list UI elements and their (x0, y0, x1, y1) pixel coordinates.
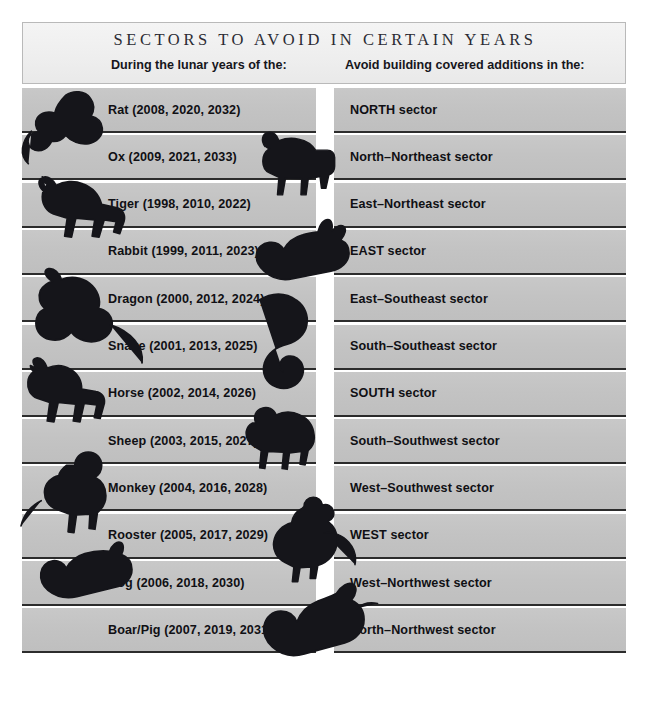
column-heading-sectors: Avoid building covered additions in the: (345, 58, 585, 72)
cell-sector: North–Northwest sector (334, 608, 626, 653)
sector-label: SOUTH sector (350, 386, 437, 400)
table-row: Sheep (2003, 2015, 2027)South–Southwest … (0, 419, 665, 466)
sector-label: South–Southwest sector (350, 434, 500, 448)
cell-lunar-year: Dog (2006, 2018, 2030) (22, 561, 316, 606)
cell-sector: East–Southeast sector (334, 277, 626, 322)
lunar-year-label: Sheep (2003, 2015, 2027) (108, 434, 258, 448)
sector-label: East–Southeast sector (350, 292, 488, 306)
table-row: Dragon (2000, 2012, 2024)East–Southeast … (0, 277, 665, 324)
cell-lunar-year: Snake (2001, 2013, 2025) (22, 325, 316, 370)
table-row: Snake (2001, 2013, 2025)South–Southeast … (0, 325, 665, 372)
table-row: Rat (2008, 2020, 2032)NORTH sector (0, 88, 665, 135)
cell-lunar-year: Dragon (2000, 2012, 2024) (22, 277, 316, 322)
sector-label: North–Northeast sector (350, 150, 493, 164)
lunar-year-label: Rat (2008, 2020, 2032) (108, 103, 240, 117)
chart-page: SECTORS TO AVOID IN CERTAIN YEARS During… (0, 0, 665, 701)
cell-lunar-year: Rabbit (1999, 2011, 2023) (22, 230, 316, 275)
cell-sector: East–Northeast sector (334, 183, 626, 228)
sector-label: NORTH sector (350, 103, 437, 117)
lunar-year-label: Dog (2006, 2018, 2030) (108, 576, 245, 590)
table-body: Rat (2008, 2020, 2032)NORTH sectorOx (20… (0, 88, 665, 658)
sector-label: South–Southeast sector (350, 339, 497, 353)
table-row: Horse (2002, 2014, 2026)SOUTH sector (0, 372, 665, 419)
sector-label: West–Northwest sector (350, 576, 492, 590)
cell-sector: West–Northwest sector (334, 561, 626, 606)
cell-sector: West–Southwest sector (334, 466, 626, 511)
cell-lunar-year: Ox (2009, 2021, 2033) (22, 135, 316, 180)
sector-label: West–Southwest sector (350, 481, 494, 495)
cell-lunar-year: Sheep (2003, 2015, 2027) (22, 419, 316, 464)
lunar-year-label: Rabbit (1999, 2011, 2023) (108, 244, 259, 258)
lunar-year-label: Rooster (2005, 2017, 2029) (108, 528, 268, 542)
table-row: Rabbit (1999, 2011, 2023)EAST sector (0, 230, 665, 277)
lunar-year-label: Snake (2001, 2013, 2025) (108, 339, 257, 353)
cell-sector: South–Southwest sector (334, 419, 626, 464)
cell-sector: WEST sector (334, 514, 626, 559)
cell-lunar-year: Monkey (2004, 2016, 2028) (22, 466, 316, 511)
cell-sector: NORTH sector (334, 88, 626, 133)
cell-lunar-year: Tiger (1998, 2010, 2022) (22, 183, 316, 228)
cell-sector: South–Southeast sector (334, 325, 626, 370)
sector-label: East–Northeast sector (350, 197, 486, 211)
table-row: Ox (2009, 2021, 2033)North–Northeast sec… (0, 135, 665, 182)
cell-sector: SOUTH sector (334, 372, 626, 417)
table-row: Boar/Pig (2007, 2019, 2031)North–Northwe… (0, 608, 665, 655)
column-heading-years: During the lunar years of the: (111, 58, 287, 72)
cell-lunar-year: Rat (2008, 2020, 2032) (22, 88, 316, 133)
table-row: Dog (2006, 2018, 2030)West–Northwest sec… (0, 561, 665, 608)
lunar-year-label: Dragon (2000, 2012, 2024) (108, 292, 265, 306)
lunar-year-label: Ox (2009, 2021, 2033) (108, 150, 237, 164)
sector-label: North–Northwest sector (350, 623, 496, 637)
table-row: Monkey (2004, 2016, 2028)West–Southwest … (0, 466, 665, 513)
cell-lunar-year: Horse (2002, 2014, 2026) (22, 372, 316, 417)
cell-lunar-year: Rooster (2005, 2017, 2029) (22, 514, 316, 559)
table-header-panel: SECTORS TO AVOID IN CERTAIN YEARS During… (22, 22, 626, 84)
cell-sector: EAST sector (334, 230, 626, 275)
page-title: SECTORS TO AVOID IN CERTAIN YEARS (23, 30, 627, 50)
table-row: Tiger (1998, 2010, 2022)East–Northeast s… (0, 183, 665, 230)
sector-label: WEST sector (350, 528, 429, 542)
sector-label: EAST sector (350, 244, 426, 258)
lunar-year-label: Monkey (2004, 2016, 2028) (108, 481, 267, 495)
cell-lunar-year: Boar/Pig (2007, 2019, 2031) (22, 608, 316, 653)
cell-sector: North–Northeast sector (334, 135, 626, 180)
table-row: Rooster (2005, 2017, 2029)WEST sector (0, 514, 665, 561)
lunar-year-label: Boar/Pig (2007, 2019, 2031) (108, 623, 272, 637)
lunar-year-label: Tiger (1998, 2010, 2022) (108, 197, 251, 211)
lunar-year-label: Horse (2002, 2014, 2026) (108, 386, 256, 400)
